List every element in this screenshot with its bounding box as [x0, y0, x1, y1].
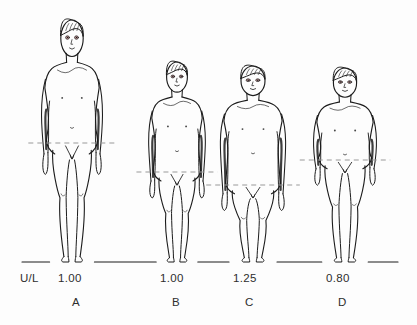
- reference-line-group: [28, 143, 390, 185]
- figure-letter-b: B: [172, 296, 180, 308]
- figure-letter-c: C: [245, 296, 254, 308]
- ratio-value-a: 1.00: [58, 272, 82, 284]
- figure-letter-a: A: [72, 296, 80, 308]
- figure-group: [42, 19, 377, 262]
- ratio-value-d: 0.80: [326, 272, 350, 284]
- figure-letter-d: D: [338, 296, 347, 308]
- figure-b: [149, 61, 206, 262]
- figure-a: [42, 19, 103, 262]
- ratio-value-b: 1.00: [160, 272, 184, 284]
- ul-row-label: U/L: [20, 272, 39, 284]
- ratio-value-c: 1.25: [233, 272, 257, 284]
- figure-c: [220, 65, 285, 262]
- figure-d: [313, 67, 376, 262]
